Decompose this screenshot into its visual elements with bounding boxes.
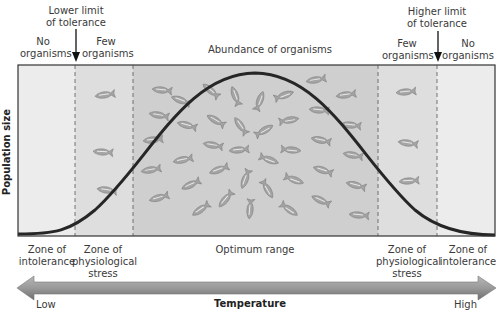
x-axis-title: Temperature: [210, 298, 290, 310]
zone-label-line: stress: [72, 268, 134, 280]
zone-label-line: physiological: [72, 256, 134, 268]
x-axis-low-label: Low: [36, 299, 56, 311]
zone-label-line: Zone of: [438, 244, 498, 256]
zone-intolerance-right: [437, 65, 495, 236]
zone-label-line: Optimum range: [200, 244, 310, 256]
zone-label-line: Zone of: [18, 244, 76, 256]
zone-label-stress-right: Zone of physiological stress: [376, 244, 438, 280]
zone-label-optimum: Optimum range: [200, 244, 310, 256]
zone-intolerance-left: [18, 65, 75, 236]
x-axis-high-label: High: [454, 299, 477, 311]
zone-label-line: intolerance: [18, 256, 76, 268]
zone-label-intolerance-right: Zone of intolerance: [438, 244, 498, 268]
lower-limit-arrow: [72, 29, 80, 62]
zone-label-intolerance-left: Zone of intolerance: [18, 244, 76, 268]
zone-label-stress-left: Zone of physiological stress: [72, 244, 134, 280]
zone-label-line: stress: [376, 268, 438, 280]
zone-label-line: Zone of: [376, 244, 438, 256]
zone-label-line: intolerance: [438, 256, 498, 268]
higher-limit-arrow: [434, 31, 442, 62]
zone-label-line: Zone of: [72, 244, 134, 256]
zone-label-line: physiological: [376, 256, 438, 268]
